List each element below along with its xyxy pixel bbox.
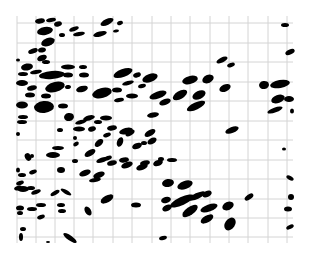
particle-blob	[18, 115, 28, 119]
particle-blob	[72, 159, 78, 163]
particle-blob	[20, 227, 26, 231]
particle-blob	[46, 241, 50, 243]
particle-blob	[27, 186, 35, 190]
particle-blob	[58, 104, 68, 109]
particle-blob	[16, 206, 24, 211]
particle-blob	[16, 80, 28, 86]
particle-blob	[284, 207, 292, 212]
particle-blob	[17, 120, 27, 124]
particle-blob	[59, 33, 65, 37]
particle-blob	[290, 109, 294, 114]
particle-grid-image	[0, 0, 313, 257]
particle-blob	[30, 154, 34, 158]
particle-blob	[17, 211, 23, 215]
particle-blob	[19, 233, 23, 241]
particle-blob	[73, 136, 77, 140]
particle-blob	[131, 203, 141, 208]
particle-blob	[36, 203, 46, 207]
particle-blob	[41, 94, 51, 99]
particle-blob	[112, 88, 122, 93]
particle-blob	[16, 132, 20, 136]
particle-blob	[282, 148, 286, 151]
particle-blob	[27, 207, 37, 211]
particle-blob	[281, 23, 289, 27]
particle-blob	[100, 116, 112, 121]
particle-blob	[61, 65, 75, 70]
particle-blob	[52, 146, 64, 150]
particle-blob	[46, 152, 60, 158]
particle-blob	[18, 173, 26, 177]
particle-blob	[94, 120, 102, 124]
particle-blob	[73, 127, 85, 132]
particle-blob	[284, 96, 294, 102]
particle-blob	[58, 209, 66, 213]
particle-blob	[141, 141, 147, 145]
particle-blob	[57, 203, 65, 207]
particle-blob	[16, 168, 20, 173]
particle-blob	[57, 167, 65, 173]
particle-blob	[126, 94, 138, 99]
particle-blob	[63, 73, 73, 78]
particle-blob	[16, 59, 20, 62]
particle-blob	[167, 158, 177, 162]
particle-blob	[42, 60, 50, 64]
particle-blob	[18, 72, 28, 76]
particle-blob	[57, 128, 63, 132]
particle-grid-canvas	[0, 0, 313, 257]
particle-blob	[25, 93, 35, 98]
particle-blob	[16, 102, 28, 109]
particle-blob	[79, 65, 87, 69]
particle-blob	[79, 73, 89, 78]
particle-blob	[17, 186, 29, 192]
particle-blob	[288, 194, 294, 200]
